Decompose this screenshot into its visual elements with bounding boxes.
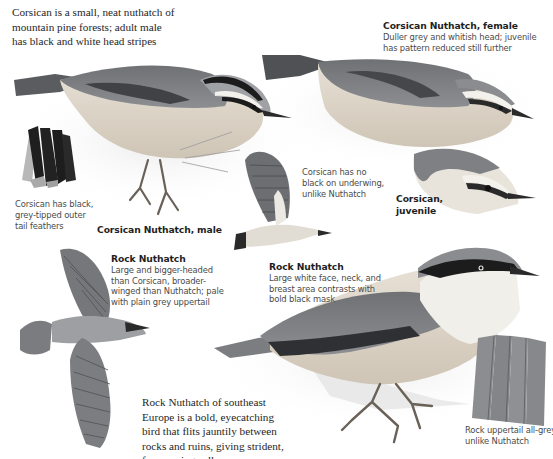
caption-line: Corsican has black,: [15, 199, 93, 210]
caption-title: Rock Nuthatch: [111, 253, 224, 265]
caption-rock-flight: Rock Nuthatch Large and bigger-headed th…: [111, 253, 224, 308]
caption-line: winged than Nuthatch; pale: [111, 286, 224, 297]
caption-line: unlike Nuthatch: [302, 189, 384, 200]
caption-rock-perched: Rock Nuthatch Large white face, neck, an…: [269, 261, 381, 305]
caption-line: Large and bigger-headed: [111, 265, 224, 276]
caption-line: Europe is a bold, eyecatching: [142, 410, 284, 425]
caption-line: has black and white head stripes: [12, 34, 175, 49]
caption-line: rocks and ruins, giving strident,: [142, 439, 284, 454]
caption-line: tail feathers: [15, 221, 93, 232]
rock-tail-illustration: [472, 335, 546, 426]
caption-corsican-intro: Corsican is a small, neat nuthatch of mo…: [12, 5, 175, 49]
caption-line: black on underwing,: [302, 178, 384, 189]
caption-line: Rock uppertail all-grey,: [465, 425, 553, 436]
caption-line: than Corsican, broader-: [111, 276, 224, 287]
illustration-plate: Corsican is a small, neat nuthatch of mo…: [0, 0, 553, 459]
caption-line: unlike Nuthatch: [465, 436, 553, 447]
caption-line: has pattern reduced still further: [383, 43, 536, 54]
caption-line: Duller grey and whitish head; juvenile: [383, 32, 536, 43]
caption-line: Rock Nuthatch of southeast: [142, 395, 284, 410]
caption-line: Corsican has no: [302, 167, 384, 178]
caption-corsican-tail: Corsican has black, grey-tipped outer ta…: [15, 199, 93, 231]
caption-rock-tail: Rock uppertail all-grey, unlike Nuthatch: [465, 425, 553, 447]
caption-rock-intro: Rock Nuthatch of southeast Europe is a b…: [142, 395, 284, 459]
caption-line: bird that flits jauntily between: [142, 424, 284, 439]
caption-title: Corsican,: [396, 193, 443, 205]
caption-line: Large white face, neck, and: [269, 273, 381, 284]
caption-line: far-carrying calls: [142, 453, 284, 459]
caption-line: mountain pine forests; adult male: [12, 20, 175, 35]
caption-title: Rock Nuthatch: [269, 261, 381, 273]
caption-title: juvenile: [396, 205, 443, 217]
caption-corsican-male: Corsican Nuthatch, male: [97, 224, 222, 236]
caption-corsican-juvenile: Corsican, juvenile: [396, 193, 443, 217]
caption-line: Corsican is a small, neat nuthatch of: [12, 5, 175, 20]
caption-line: with plain grey uppertail: [111, 297, 224, 308]
caption-title: Corsican Nuthatch, female: [383, 20, 536, 32]
caption-corsican-female: Corsican Nuthatch, female Duller grey an…: [383, 20, 536, 53]
caption-title: Corsican Nuthatch, male: [97, 224, 222, 236]
caption-line: breast area contrasts with: [269, 284, 381, 295]
caption-line: bold black mask: [269, 294, 381, 305]
caption-line: grey-tipped outer: [15, 210, 93, 221]
caption-corsican-underwing: Corsican has no black on underwing, unli…: [302, 167, 384, 199]
